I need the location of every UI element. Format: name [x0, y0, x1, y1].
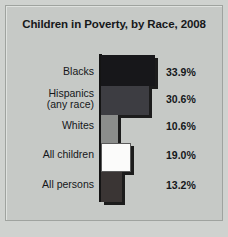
bar [101, 86, 149, 115]
category-label: Whites [62, 120, 94, 132]
poverty-bar-chart-figure: Children in Poverty, by Race, 2008 Black… [0, 0, 228, 237]
plot-area: Blacks33.9%Hispanics(any race)30.6%White… [0, 0, 228, 237]
value-label: 33.9% [166, 66, 196, 78]
bar [101, 115, 118, 143]
category-label-line: All children [43, 149, 94, 161]
category-label-line: Whites [62, 120, 94, 132]
category-label: Hispanics(any race) [47, 88, 94, 111]
value-label: 10.6% [166, 120, 196, 132]
bar [101, 172, 122, 202]
category-label: Blacks [63, 66, 94, 78]
category-label: All persons [42, 179, 94, 191]
category-label-line: All persons [42, 179, 94, 191]
category-label: All children [43, 149, 94, 161]
bar [101, 143, 131, 172]
value-label: 19.0% [166, 149, 196, 161]
category-label-line: Blacks [63, 66, 94, 78]
value-label: 13.2% [166, 179, 196, 191]
bar [101, 55, 155, 86]
value-label: 30.6% [166, 93, 196, 105]
category-label-line: (any race) [47, 99, 94, 111]
